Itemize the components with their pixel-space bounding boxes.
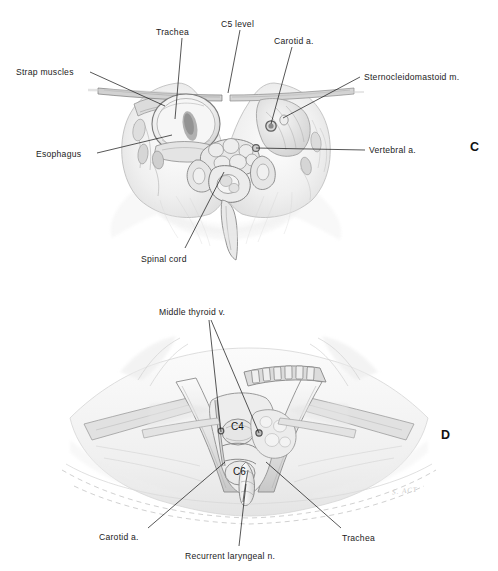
callout-label-recurrent-laryngeal-n: Recurrent laryngeal n.	[185, 552, 275, 561]
figure-root: CTracheaC5 levelCarotid a.Strap musclesS…	[0, 0, 498, 571]
callout-label-spinal-cord: Spinal cord	[141, 255, 187, 264]
leader-line-c5-level	[228, 30, 240, 93]
callout-label-middle-thyroid-v: Middle thyroid v.	[159, 308, 225, 317]
callout-label-carotid-a: Carotid a.	[99, 533, 139, 542]
panel-letter-c: C	[470, 141, 479, 154]
callout-label-c5-level: C5 level	[221, 20, 254, 29]
callout-label-vertebral-a: Vertebral a.	[369, 146, 416, 155]
callout-label-trachea: Trachea	[342, 534, 375, 543]
callout-label-sternocleidomastoid-m: Sternocleidomastoid m.	[364, 73, 459, 82]
callout-label-trachea: Trachea	[156, 28, 189, 37]
structure-label-c6: C6	[233, 467, 246, 477]
anatomical-illustration	[0, 0, 498, 571]
structure-label-c4: C4	[231, 422, 244, 432]
panel-letter-d: D	[441, 429, 450, 442]
callout-label-strap-muscles: Strap muscles	[16, 68, 74, 77]
callout-label-carotid-a: Carotid a.	[274, 37, 314, 46]
callout-label-esophagus: Esophagus	[36, 150, 81, 159]
